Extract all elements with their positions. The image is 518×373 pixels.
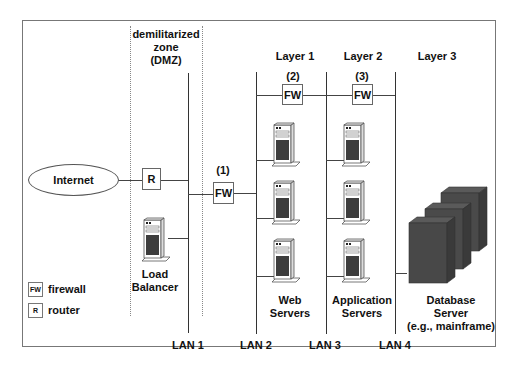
lan-4-label: LAN 4	[375, 339, 415, 352]
dmz-label-line2: zone	[130, 41, 202, 54]
web-servers-label: Web Servers	[260, 294, 320, 320]
database-label: Database Server (e.g., mainframe)	[405, 294, 497, 333]
app-servers-label-line2: Servers	[322, 307, 402, 320]
lan-3-label: LAN 3	[305, 339, 345, 352]
legend-firewall-symbol-text: FW	[30, 286, 41, 293]
dmz-label-line1: demilitarized	[130, 28, 202, 41]
firewall-2[interactable]: FW	[282, 84, 303, 105]
legend-firewall-text: firewall	[48, 283, 86, 295]
firewall-1[interactable]: FW	[213, 182, 234, 204]
legend-router-symbol: R	[28, 303, 43, 318]
legend-firewall-symbol: FW	[28, 282, 43, 297]
router-label: R	[148, 173, 156, 185]
firewall-3[interactable]: FW	[352, 84, 373, 105]
app-server-1-icon[interactable]	[338, 122, 372, 170]
layer-2-label: Layer 2	[333, 50, 393, 63]
lan1-fw1-link	[188, 194, 214, 195]
router-lan1-link	[161, 180, 188, 181]
lan-1-label: LAN 1	[168, 339, 208, 352]
database-label-line3: (e.g., mainframe)	[405, 320, 497, 333]
load-balancer-label-line1: Load	[128, 268, 182, 281]
app-servers-label: Application Servers	[322, 294, 402, 320]
load-balancer-server-icon[interactable]	[138, 217, 172, 265]
firewall-1-number: (1)	[210, 164, 236, 177]
app-server-2-icon[interactable]	[338, 180, 372, 228]
firewall-2-number: (2)	[280, 70, 306, 83]
internet-cloud[interactable]: Internet	[28, 164, 119, 196]
layer-1-label: Layer 1	[265, 50, 325, 63]
web-server-1-icon[interactable]	[268, 122, 302, 170]
dmz-label: demilitarized zone (DMZ)	[130, 28, 202, 67]
app-servers-label-line1: Application	[322, 294, 402, 307]
firewall-3-number: (3)	[349, 70, 375, 83]
internet-label: Internet	[53, 174, 93, 186]
lan2-lan3-lan4-bus	[256, 95, 395, 96]
dmz-label-line3: (DMZ)	[130, 54, 202, 67]
internet-router-link	[118, 180, 142, 181]
app-server-3-icon[interactable]	[338, 238, 372, 286]
web-server-2-icon[interactable]	[268, 180, 302, 228]
firewall-2-label: FW	[284, 89, 301, 101]
legend-router-text: router	[48, 304, 80, 316]
firewall-1-label: FW	[215, 187, 232, 199]
layer-3-label: Layer 3	[407, 50, 467, 63]
fw1-lan2-link	[234, 193, 256, 194]
database-mainframe-icon[interactable]	[405, 185, 497, 285]
load-balancer-label: Load Balancer	[128, 268, 182, 294]
dmz-right-boundary	[202, 26, 203, 316]
web-servers-label-line2: Servers	[260, 307, 320, 320]
web-server-3-icon[interactable]	[268, 238, 302, 286]
load-balancer-label-line2: Balancer	[128, 281, 182, 294]
router[interactable]: R	[142, 168, 161, 190]
legend-router-symbol-text: R	[33, 307, 38, 314]
database-label-line1: Database	[405, 294, 497, 307]
lan-2-line	[256, 72, 257, 334]
lan-2-label: LAN 2	[236, 339, 276, 352]
database-label-line2: Server	[405, 307, 497, 320]
lan-1-line	[188, 73, 189, 333]
web-servers-label-line1: Web	[260, 294, 320, 307]
firewall-3-label: FW	[354, 89, 371, 101]
